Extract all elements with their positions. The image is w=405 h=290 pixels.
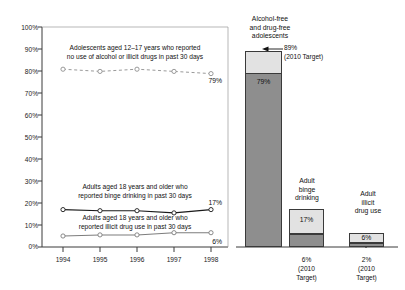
bar3-caption-line3: drug use	[345, 207, 391, 216]
bar1-target-segment	[245, 51, 282, 74]
series-adolescent-no-use-markers	[61, 67, 213, 76]
bar2-caption-line1: Adult	[288, 177, 326, 186]
x-label-1998: 1998	[196, 256, 226, 263]
annotation-binge-value: 17%	[196, 199, 222, 206]
annotation-adolescent-value: 79%	[196, 77, 222, 84]
bar2-target-note-line2: Target)	[283, 274, 330, 282]
annotation-adolescent-line2: no use of alcohol or illicit drugs in pa…	[42, 53, 228, 61]
bar2-caption-line3: drinking	[288, 194, 326, 203]
bar3-caption-line2: illicit	[345, 199, 391, 208]
bar2-target-value: 6%	[289, 256, 324, 264]
bar1-target-note: (2010 Target)	[284, 53, 352, 61]
bar2-target-note-line1: (2010	[283, 265, 330, 273]
annotation-binge-line1: Adults aged 18 years and older who	[42, 183, 228, 191]
bar3-target-value: 2%	[349, 256, 384, 264]
bar3-caption-line1: Adult	[345, 190, 391, 199]
bar2-current-value: 17%	[289, 216, 324, 223]
x-label-1994: 1994	[48, 256, 78, 263]
bar3-target-segment	[349, 243, 384, 247]
bar1-caption-line2: and drug-free	[232, 24, 308, 33]
x-label-1995: 1995	[85, 256, 115, 263]
annotation-illicit-value: 6%	[196, 238, 222, 245]
x-label-1996: 1996	[122, 256, 152, 263]
annotation-illicit-line2: reported illicit drug use in past 30 day…	[42, 223, 228, 231]
chart-figure: 100% 90% 80% 70% 60% 50% 40% 30% 20% 10%…	[0, 0, 405, 290]
bar3-current-value: 6%	[349, 234, 384, 241]
x-tick-marks	[63, 247, 211, 252]
annotation-illicit-line1: Adults aged 18 years and older who	[42, 214, 228, 222]
annotation-adolescent-line1: Adolescents aged 12–17 years who reporte…	[42, 44, 228, 52]
x-label-1997: 1997	[159, 256, 189, 263]
bar2-target-segment	[289, 234, 324, 247]
series-illicit-drug-use-markers	[61, 231, 213, 239]
bar1-target-value: 89%	[284, 44, 344, 52]
bar1-current-value: 79%	[245, 78, 282, 85]
bar2-caption-line2: binge	[288, 186, 326, 195]
bar1-caption-line1: Alcohol-free	[232, 15, 308, 24]
bar3-target-note-line1: (2010	[343, 265, 390, 273]
bar1-current-segment	[245, 73, 282, 247]
bar3-target-note-line2: Target)	[343, 274, 390, 282]
bar1-caption-line3: adolescents	[232, 32, 308, 41]
